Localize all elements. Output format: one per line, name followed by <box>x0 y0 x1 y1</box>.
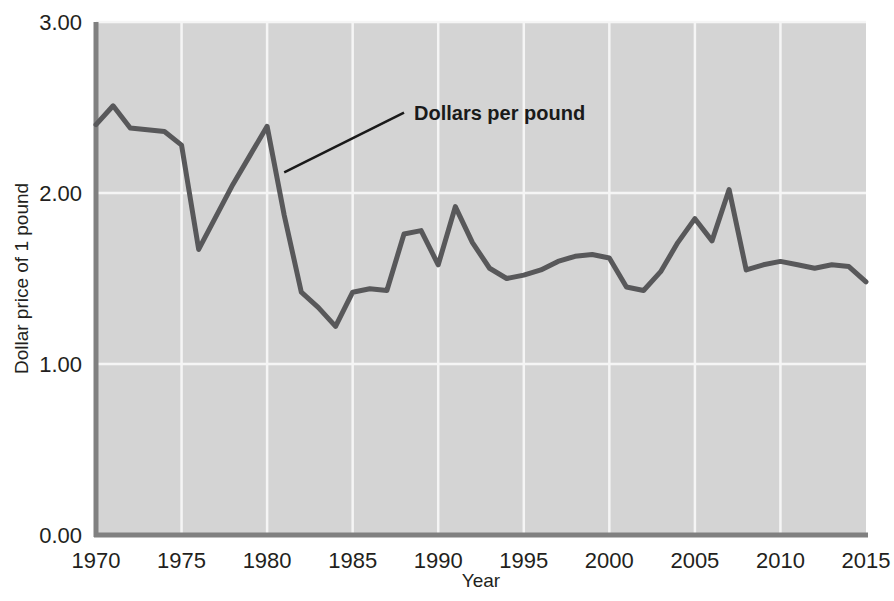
x-tick-label: 1970 <box>72 548 121 573</box>
x-tick-label: 1995 <box>499 548 548 573</box>
x-axis-title: Year <box>462 570 501 591</box>
y-tick-labels: 0.001.002.003.00 <box>39 10 82 548</box>
line-chart: 1970197519801985199019952000200520102015… <box>0 0 894 601</box>
y-tick-label: 0.00 <box>39 523 82 548</box>
x-tick-label: 1985 <box>328 548 377 573</box>
x-tick-label: 2010 <box>756 548 805 573</box>
y-tick-label: 3.00 <box>39 10 82 35</box>
chart-figure: 1970197519801985199019952000200520102015… <box>0 0 894 601</box>
y-axis-title: Dollar price of 1 pound <box>11 183 32 374</box>
y-tick-label: 2.00 <box>39 181 82 206</box>
x-tick-label: 1980 <box>243 548 292 573</box>
x-tick-label: 2015 <box>842 548 891 573</box>
plot-background <box>96 22 866 535</box>
annotation-label: Dollars per pound <box>414 102 585 124</box>
x-tick-label: 1990 <box>414 548 463 573</box>
y-tick-label: 1.00 <box>39 352 82 377</box>
x-tick-label: 2005 <box>670 548 719 573</box>
x-tick-label: 1975 <box>157 548 206 573</box>
x-tick-label: 2000 <box>585 548 634 573</box>
